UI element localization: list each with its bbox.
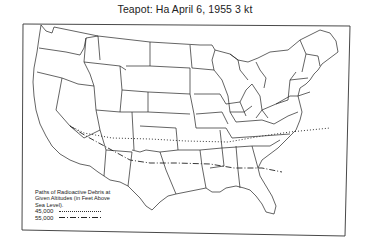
path-55000-dashdot <box>70 126 282 172</box>
legend-altitude-label: 55,000 <box>35 215 57 221</box>
legend-entry-55000: 55,000 <box>35 215 115 222</box>
dash-dot-line-icon <box>59 217 101 218</box>
legend-heading: Paths of Radioactive Debris at Given Alt… <box>35 189 115 208</box>
us-outline <box>33 25 338 214</box>
legend-altitude-label: 45,000 <box>35 208 57 214</box>
map-legend: Paths of Radioactive Debris at Given Alt… <box>35 189 115 221</box>
path-45000-dotted <box>70 126 330 142</box>
dotted-line-icon <box>59 211 101 212</box>
